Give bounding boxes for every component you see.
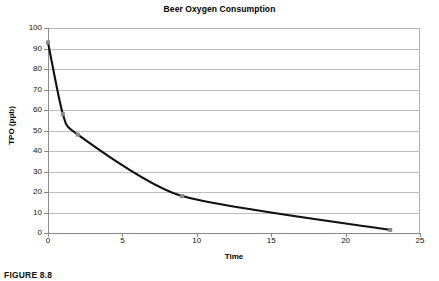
y-tick-mark-50 (44, 131, 48, 132)
y-tick-label-90: 90 (2, 45, 42, 53)
plot-area (48, 28, 420, 233)
y-tick-mark-60 (44, 110, 48, 111)
gridline-y-10 (48, 213, 420, 214)
x-tick-label-25: 25 (405, 236, 435, 245)
figure-caption: FIGURE 8.8 (4, 270, 52, 280)
x-tick-label-15: 15 (256, 236, 286, 245)
gridline-y-30 (48, 172, 420, 173)
gridline-y-70 (48, 90, 420, 91)
y-tick-mark-10 (44, 213, 48, 214)
x-tick-label-20: 20 (331, 236, 361, 245)
gridline-y-100 (48, 28, 420, 29)
x-axis-label: Time (48, 252, 420, 261)
y-tick-mark-80 (44, 69, 48, 70)
y-tick-label-70: 70 (2, 86, 42, 94)
y-tick-label-10: 10 (2, 209, 42, 217)
gridline-y-20 (48, 192, 420, 193)
y-tick-mark-40 (44, 151, 48, 152)
y-tick-mark-20 (44, 192, 48, 193)
y-tick-label-80: 80 (2, 65, 42, 73)
y-tick-label-100: 100 (2, 24, 42, 32)
x-tick-label-0: 0 (33, 236, 63, 245)
y-tick-label-30: 30 (2, 168, 42, 176)
x-axis-line (48, 233, 420, 234)
y-tick-mark-30 (44, 172, 48, 173)
y-axis-label: TPO (ppb) (7, 94, 16, 158)
y-tick-mark-100 (44, 28, 48, 29)
y-tick-mark-90 (44, 49, 48, 50)
gridline-y-60 (48, 110, 420, 111)
y-tick-label-20: 20 (2, 188, 42, 196)
gridline-y-80 (48, 69, 420, 70)
chart-title: Beer Oxygen Consumption (0, 4, 439, 14)
x-tick-label-10: 10 (182, 236, 212, 245)
gridline-y-50 (48, 131, 420, 132)
y-axis-line (48, 28, 49, 233)
x-tick-label-5: 5 (107, 236, 137, 245)
gridline-y-40 (48, 151, 420, 152)
gridline-y-90 (48, 49, 420, 50)
y-tick-mark-70 (44, 90, 48, 91)
figure-container: Beer Oxygen Consumption 0102030405060708… (0, 0, 439, 281)
